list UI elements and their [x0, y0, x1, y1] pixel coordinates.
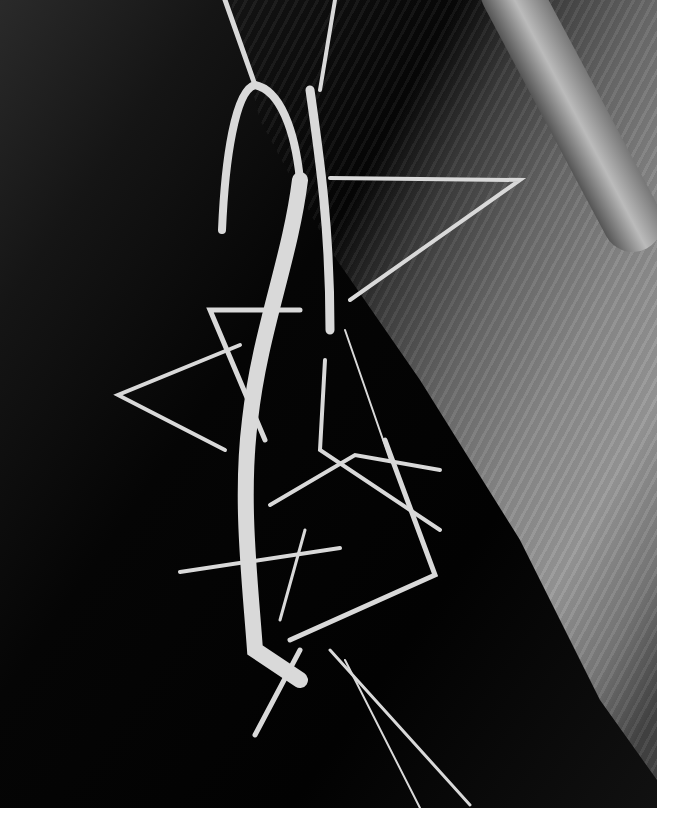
stick-insect-photo: [0, 0, 657, 808]
stick-insects: [0, 0, 657, 808]
